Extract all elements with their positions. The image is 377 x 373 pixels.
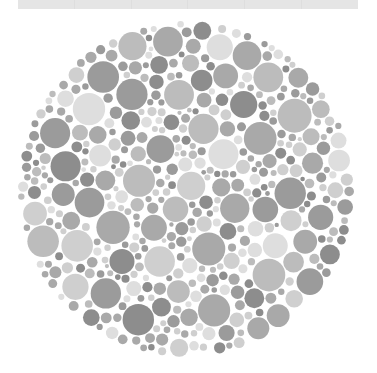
plate-dot	[167, 280, 190, 303]
plate-dot	[55, 222, 62, 229]
plate-dot	[249, 174, 260, 185]
plate-dot	[339, 225, 349, 235]
plate-dot	[36, 109, 45, 118]
plate-dot	[326, 127, 333, 134]
plate-dot	[40, 153, 51, 164]
plate-dot	[286, 156, 295, 165]
plate-dot	[173, 268, 183, 278]
plate-dot	[112, 156, 120, 164]
plate-dot	[286, 142, 292, 148]
plate-dot	[214, 342, 225, 353]
plate-dot	[49, 91, 55, 97]
plate-dot	[134, 221, 140, 227]
plate-dot	[197, 273, 206, 282]
plate-dot	[341, 217, 348, 224]
plate-dot	[207, 210, 213, 216]
plate-dot	[283, 252, 304, 273]
plate-dot	[190, 143, 196, 149]
plate-dot	[158, 108, 166, 116]
plate-dot	[285, 290, 303, 308]
plate-dot	[206, 62, 215, 71]
plate-dot	[120, 161, 126, 167]
plate-dot	[115, 168, 124, 177]
plate-dot	[142, 282, 152, 292]
plate-dot	[97, 324, 103, 330]
plate-dot	[262, 51, 272, 61]
plate-dot	[148, 294, 155, 301]
plate-dot	[144, 246, 175, 277]
plate-dot	[191, 70, 213, 92]
plate-dot	[271, 170, 277, 176]
plate-dot	[329, 171, 336, 178]
plate-dot	[109, 249, 134, 274]
plate-dot	[135, 253, 142, 260]
plate-dot	[62, 274, 88, 300]
plate-dot	[282, 65, 289, 72]
plate-dot	[164, 80, 194, 110]
plate-dot	[48, 206, 55, 213]
plate-dot	[166, 163, 177, 174]
plate-dot	[132, 234, 139, 241]
plate-dot	[93, 248, 101, 256]
plate-dot	[273, 50, 283, 60]
dot-layer	[18, 21, 354, 357]
plate-dot	[113, 314, 121, 322]
plate-dot	[323, 196, 330, 203]
plate-dot	[199, 195, 213, 209]
plate-dot	[230, 91, 257, 118]
plate-dot	[259, 111, 269, 121]
plate-dot	[83, 309, 100, 326]
plate-dot	[42, 172, 48, 178]
plate-dot	[220, 121, 235, 136]
plate-dot	[163, 196, 189, 222]
plate-dot	[85, 52, 96, 63]
plate-dot	[244, 122, 277, 155]
plate-dot	[198, 147, 206, 155]
plate-dot	[259, 168, 268, 177]
plate-dot	[181, 114, 190, 123]
plate-dot	[123, 304, 154, 335]
plate-dot	[329, 227, 338, 236]
plate-dot	[141, 215, 167, 241]
plate-dot	[106, 50, 118, 62]
plate-dot	[42, 271, 49, 278]
plate-dot	[31, 177, 39, 185]
plate-dot	[87, 61, 119, 93]
plate-dot	[180, 309, 197, 326]
plate-dot	[268, 181, 275, 188]
plate-dot	[129, 61, 142, 74]
plate-dot	[81, 158, 88, 165]
plate-dot	[187, 108, 192, 113]
plate-dot	[219, 271, 228, 280]
plate-dot	[172, 135, 180, 143]
plate-dot	[186, 39, 201, 54]
plate-dot	[153, 165, 161, 173]
plate-dot	[122, 241, 129, 248]
plate-dot	[193, 22, 211, 40]
plate-dot	[82, 148, 88, 154]
plate-dot	[226, 342, 232, 348]
plate-dot	[278, 288, 284, 294]
plate-dot	[263, 154, 277, 168]
plate-dot	[37, 261, 44, 268]
plate-dot	[314, 119, 321, 126]
plate-dot	[177, 111, 181, 115]
plate-dot	[125, 208, 132, 215]
plate-dot	[245, 312, 253, 320]
plate-dot	[182, 258, 197, 273]
plate-dot	[237, 225, 244, 232]
plate-dot	[156, 333, 168, 345]
plate-dot	[238, 264, 247, 273]
plate-dot	[341, 173, 353, 185]
plate-dot	[331, 133, 347, 149]
plate-dot	[62, 212, 80, 230]
plate-dot	[265, 191, 270, 196]
plate-dot	[320, 244, 340, 264]
plate-dot	[169, 59, 178, 68]
plate-dot	[153, 325, 160, 332]
plate-dot	[189, 201, 195, 207]
plate-dot	[95, 171, 115, 191]
plate-dot	[137, 132, 148, 143]
plate-dot	[48, 279, 57, 288]
plate-dot	[110, 107, 122, 119]
